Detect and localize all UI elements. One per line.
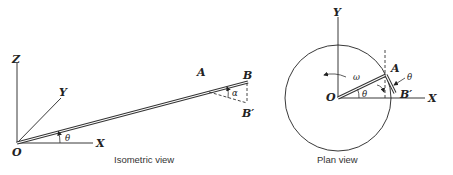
plan-view: Y X O A B′ θ θ ω Plan view	[285, 6, 437, 165]
isometric-caption: Isometric view	[114, 154, 174, 165]
theta-arc-icon	[358, 89, 360, 98]
theta-arm-label: θ	[407, 72, 412, 82]
omega-label: ω	[353, 72, 360, 82]
point-a-label: A	[196, 66, 206, 79]
theta-label: θ	[65, 133, 70, 143]
diagram-canvas: Z Y X O θ A B B′ α Isometric view	[0, 0, 453, 175]
rod-oab	[17, 82, 248, 143]
plan-caption: Plan view	[317, 154, 358, 165]
point-bprime-label: B′	[399, 88, 412, 101]
alpha-label: α	[232, 88, 238, 98]
theta-label: θ	[362, 89, 367, 99]
theta-arm-arc-icon	[377, 85, 384, 92]
x-axis-label: X	[427, 92, 437, 105]
y-axis-label: Y	[59, 86, 68, 99]
z-axis-label: Z	[11, 53, 21, 66]
isometric-view: Z Y X O θ A B B′ α Isometric view	[11, 53, 254, 165]
theta-pointer-icon	[394, 78, 405, 85]
point-b-label: B	[242, 69, 252, 82]
omega-arrow-icon	[324, 74, 346, 77]
origin-label: O	[12, 146, 22, 159]
x-axis-label: X	[95, 137, 105, 150]
point-bprime-label: B′	[241, 107, 254, 120]
origin-label: O	[326, 91, 336, 104]
point-a-label: A	[390, 62, 400, 75]
y-axis-label: Y	[333, 6, 342, 19]
